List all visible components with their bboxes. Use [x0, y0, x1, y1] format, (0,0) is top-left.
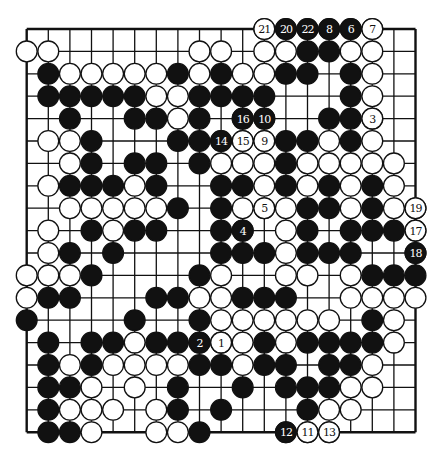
white-stone — [276, 41, 297, 62]
numbered-move-5: 5 — [254, 198, 275, 219]
numbered-move-11: 11 — [297, 422, 318, 443]
black-stone — [124, 86, 145, 107]
white-stone — [319, 131, 340, 152]
black-stone — [211, 175, 232, 196]
white-stone — [340, 198, 361, 219]
black-stone — [276, 153, 297, 174]
black-stone — [384, 220, 405, 241]
black-stone — [254, 243, 275, 264]
black-stone — [211, 355, 232, 376]
white-stone — [60, 153, 81, 174]
black-stone — [168, 63, 189, 84]
white-stone — [340, 399, 361, 420]
numbered-move-18: 18 — [405, 243, 426, 264]
black-stone — [319, 355, 340, 376]
white-stone — [38, 41, 59, 62]
black-stone — [340, 355, 361, 376]
black-stone — [168, 131, 189, 152]
white-stone — [103, 220, 124, 241]
black-stone — [146, 175, 167, 196]
numbered-move-13: 13 — [319, 422, 340, 443]
white-stone — [103, 198, 124, 219]
white-stone — [81, 377, 102, 398]
white-stone — [38, 131, 59, 152]
black-stone — [168, 377, 189, 398]
white-stone — [124, 377, 145, 398]
white-stone — [146, 355, 167, 376]
numbered-move-16: 16 — [232, 108, 253, 129]
black-stone — [81, 265, 102, 286]
black-stone — [38, 86, 59, 107]
white-stone — [297, 310, 318, 331]
numbered-move-9: 9 — [254, 131, 275, 152]
black-stone — [124, 310, 145, 331]
white-stone — [362, 153, 383, 174]
white-stone — [168, 355, 189, 376]
move-number-label: 20 — [280, 23, 293, 36]
black-stone — [124, 220, 145, 241]
black-stone — [297, 332, 318, 353]
black-stone — [254, 86, 275, 107]
white-stone — [232, 153, 253, 174]
white-stone — [60, 355, 81, 376]
black-stone — [38, 377, 59, 398]
black-stone — [189, 131, 210, 152]
white-stone — [168, 108, 189, 129]
black-stone — [81, 355, 102, 376]
white-stone — [146, 198, 167, 219]
numbered-move-3: 3 — [362, 108, 383, 129]
move-number-label: 10 — [258, 113, 271, 126]
white-stone — [362, 63, 383, 84]
black-stone — [168, 198, 189, 219]
white-stone — [81, 399, 102, 420]
black-stone — [405, 265, 426, 286]
black-stone — [60, 422, 81, 443]
white-stone — [384, 332, 405, 353]
white-stone — [362, 131, 383, 152]
white-stone — [38, 220, 59, 241]
white-stone — [340, 41, 361, 62]
black-stone — [297, 220, 318, 241]
black-stone — [276, 131, 297, 152]
move-number-label: 13 — [323, 426, 336, 439]
white-stone — [319, 153, 340, 174]
black-stone — [168, 287, 189, 308]
black-stone — [16, 310, 37, 331]
white-stone — [319, 399, 340, 420]
black-stone — [103, 332, 124, 353]
move-number-label: 4 — [240, 225, 247, 238]
numbered-move-12: 12 — [276, 422, 297, 443]
move-number-label: 3 — [369, 113, 376, 126]
move-number-label: 2 — [197, 337, 203, 350]
white-stone — [232, 332, 253, 353]
white-stone — [81, 422, 102, 443]
black-stone — [146, 220, 167, 241]
numbered-move-15: 15 — [232, 131, 253, 152]
white-stone — [81, 63, 102, 84]
black-stone — [276, 63, 297, 84]
white-stone — [146, 399, 167, 420]
black-stone — [297, 243, 318, 264]
black-stone — [340, 63, 361, 84]
black-stone — [297, 41, 318, 62]
white-stone — [340, 153, 361, 174]
black-stone — [340, 131, 361, 152]
black-stone — [319, 377, 340, 398]
black-stone — [362, 198, 383, 219]
move-number-label: 5 — [261, 202, 268, 215]
go-board-diagram: 12345678910111213141516171819202122 — [0, 0, 437, 473]
black-stone — [362, 265, 383, 286]
white-stone — [254, 63, 275, 84]
black-stone — [38, 422, 59, 443]
move-number-label: 11 — [302, 426, 314, 439]
black-stone — [168, 399, 189, 420]
black-stone — [362, 310, 383, 331]
white-stone — [254, 153, 275, 174]
black-stone — [38, 355, 59, 376]
white-stone — [211, 287, 232, 308]
black-stone — [232, 86, 253, 107]
numbered-move-22: 22 — [297, 19, 318, 40]
black-stone — [319, 175, 340, 196]
black-stone — [38, 332, 59, 353]
black-stone — [319, 243, 340, 264]
